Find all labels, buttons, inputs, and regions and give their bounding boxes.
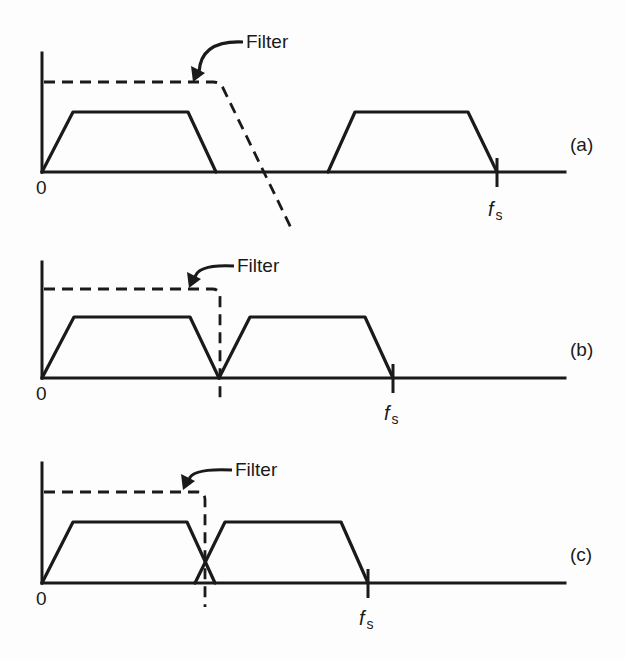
filter-response [44, 289, 220, 398]
filter-label: Filter [237, 255, 280, 276]
baseband-spectrum [42, 112, 216, 172]
origin-label: 0 [36, 383, 47, 404]
filter-label: Filter [246, 31, 289, 52]
panel-a: Filter0fs(a) [36, 31, 593, 232]
filter-arrow [189, 470, 232, 480]
image-spectrum [195, 522, 368, 583]
panel-label: (a) [570, 134, 593, 155]
baseband-spectrum [42, 522, 215, 583]
panel-b: Filter0fs(b) [36, 255, 593, 427]
panel-c: Filter0fs(c) [36, 459, 592, 632]
filter-arrow [195, 266, 234, 278]
panel-label: (b) [570, 339, 593, 360]
image-spectrum [219, 317, 393, 378]
origin-label: 0 [36, 588, 47, 609]
arrowhead-icon [187, 272, 201, 288]
filter-response [44, 82, 293, 232]
filter-arrow [199, 42, 243, 72]
fs-label: fs [359, 607, 374, 632]
sampling-spectrum-diagram: Filter0fs(a)Filter0fs(b)Filter0fs(c) [0, 0, 625, 660]
baseband-spectrum [42, 317, 219, 378]
filter-label: Filter [235, 459, 278, 480]
origin-label: 0 [36, 177, 47, 198]
image-spectrum [328, 112, 497, 172]
filter-response [44, 492, 205, 607]
panel-label: (c) [570, 544, 592, 565]
fs-label: fs [488, 198, 503, 223]
fs-label: fs [384, 402, 399, 427]
